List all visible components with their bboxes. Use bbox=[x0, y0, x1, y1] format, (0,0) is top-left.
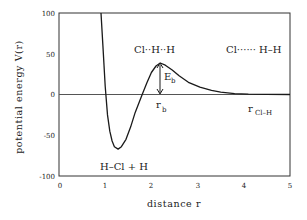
x-axis-label: distance r bbox=[147, 198, 201, 209]
annotation-rclh: r Cl–H bbox=[248, 103, 272, 117]
rb-sub: b bbox=[162, 106, 167, 114]
y-tick-0: 0 bbox=[51, 91, 55, 99]
x-tick-3: 3 bbox=[196, 182, 200, 190]
annotation-products: H–Cl + H bbox=[100, 161, 148, 172]
annotation-rb: r b bbox=[156, 99, 167, 114]
y-tick-minus-100: -100 bbox=[39, 173, 55, 181]
x-tick-1: 1 bbox=[103, 182, 107, 190]
y-tick-100: 100 bbox=[42, 10, 55, 18]
rclh-main: r bbox=[248, 103, 253, 114]
annotation-Eb: E b bbox=[164, 71, 176, 85]
x-tick-4: 4 bbox=[242, 182, 247, 190]
x-tick-2: 2 bbox=[149, 182, 153, 190]
Eb-sub: b bbox=[171, 77, 176, 85]
y-axis-ticks: 100 50 0 -50 -100 bbox=[39, 10, 55, 181]
rb-main: r bbox=[156, 99, 161, 110]
annotation-reactants: Cl······ H–H bbox=[226, 44, 282, 55]
y-tick-minus-50: -50 bbox=[44, 132, 55, 140]
barrier-arrow bbox=[157, 63, 163, 94]
x-tick-5: 5 bbox=[288, 182, 292, 190]
x-axis-ticks: 0 1 2 3 4 5 bbox=[58, 182, 292, 190]
rclh-sub: Cl–H bbox=[255, 109, 272, 117]
y-tick-50: 50 bbox=[46, 51, 55, 59]
x-tick-0: 0 bbox=[58, 182, 62, 190]
potential-curve bbox=[101, 13, 290, 149]
potential-energy-chart: 100 50 0 -50 -100 0 1 2 3 4 5 distance r… bbox=[0, 0, 307, 220]
annotation-transition-state: Cl··H··H bbox=[134, 44, 175, 55]
y-axis-label: potential energy V(r) bbox=[13, 40, 24, 154]
